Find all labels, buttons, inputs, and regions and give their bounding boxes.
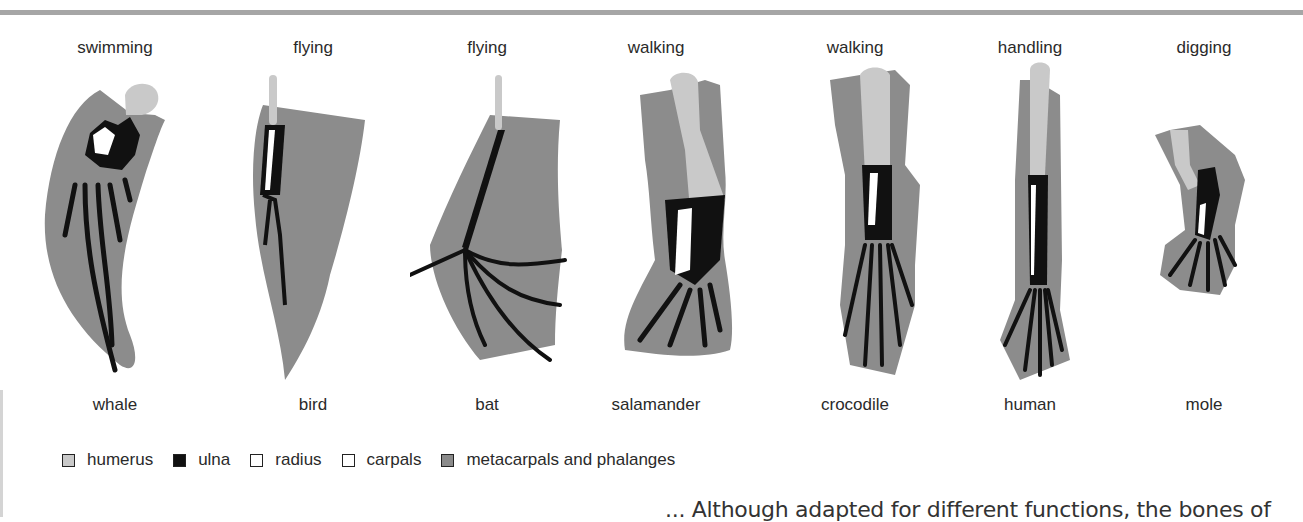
bird-forelimb-illustration <box>245 75 375 385</box>
metacarpals-swatch-icon <box>441 454 454 467</box>
function-label-whale: swimming <box>77 38 153 58</box>
salamander-forelimb-illustration <box>610 60 750 360</box>
left-border-rule <box>0 390 3 517</box>
function-label-bat: flying <box>467 38 507 58</box>
top-border-rule <box>0 10 1303 15</box>
legend-item-metacarpals-phalanges: metacarpals and phalanges <box>441 450 675 470</box>
legend-item-humerus: humerus <box>62 450 153 470</box>
function-label-bird: flying <box>293 38 333 58</box>
legend-label: carpals <box>367 450 422 470</box>
bone-legend: humerus ulna radius carpals metacarpals … <box>62 450 695 470</box>
bat-forelimb-illustration <box>410 75 570 385</box>
function-label-salamander: walking <box>628 38 685 58</box>
human-forelimb-illustration <box>1000 60 1080 380</box>
function-label-crocodile: walking <box>827 38 884 58</box>
animal-label-human: human <box>1004 395 1056 415</box>
crocodile-forelimb-illustration <box>820 65 930 375</box>
carpals-swatch-icon <box>342 454 355 467</box>
animal-label-bird: bird <box>299 395 327 415</box>
legend-item-radius: radius <box>250 450 321 470</box>
function-label-mole: digging <box>1177 38 1232 58</box>
whale-forelimb-illustration <box>30 75 210 375</box>
mole-forelimb-illustration <box>1150 125 1250 295</box>
legend-item-carpals: carpals <box>342 450 422 470</box>
ulna-swatch-icon <box>173 454 186 467</box>
legend-item-ulna: ulna <box>173 450 230 470</box>
figure-caption: ... Although adapted for different funct… <box>665 497 1303 522</box>
radius-swatch-icon <box>250 454 263 467</box>
animal-label-salamander: salamander <box>612 395 701 415</box>
humerus-swatch-icon <box>62 454 75 467</box>
legend-label: metacarpals and phalanges <box>466 450 675 470</box>
legend-label: ulna <box>198 450 230 470</box>
animal-label-bat: bat <box>475 395 499 415</box>
animal-label-whale: whale <box>93 395 137 415</box>
legend-label: humerus <box>87 450 153 470</box>
animal-label-mole: mole <box>1186 395 1223 415</box>
animal-label-crocodile: crocodile <box>821 395 889 415</box>
legend-label: radius <box>275 450 321 470</box>
function-label-human: handling <box>998 38 1062 58</box>
